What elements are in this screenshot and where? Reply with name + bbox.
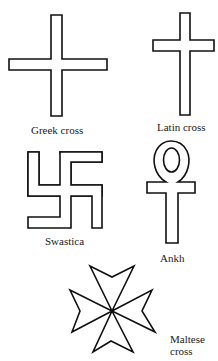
latin-cross-label: Latin cross: [157, 122, 206, 133]
ankh-label: Ankh: [160, 253, 184, 264]
ankh-icon: [147, 141, 195, 243]
maltese-cross-label-line1: Maltese: [170, 334, 205, 345]
latin-cross-icon: [153, 13, 214, 115]
swastica-label: Swastica: [45, 236, 84, 247]
maltese-cross-icon: [70, 266, 155, 352]
crosses-figure: [0, 0, 218, 361]
greek-cross-icon: [9, 15, 107, 116]
greek-cross-label: Greek cross: [31, 125, 83, 136]
swastica-icon: [28, 152, 102, 228]
maltese-cross-label-line2: cross: [170, 346, 193, 357]
